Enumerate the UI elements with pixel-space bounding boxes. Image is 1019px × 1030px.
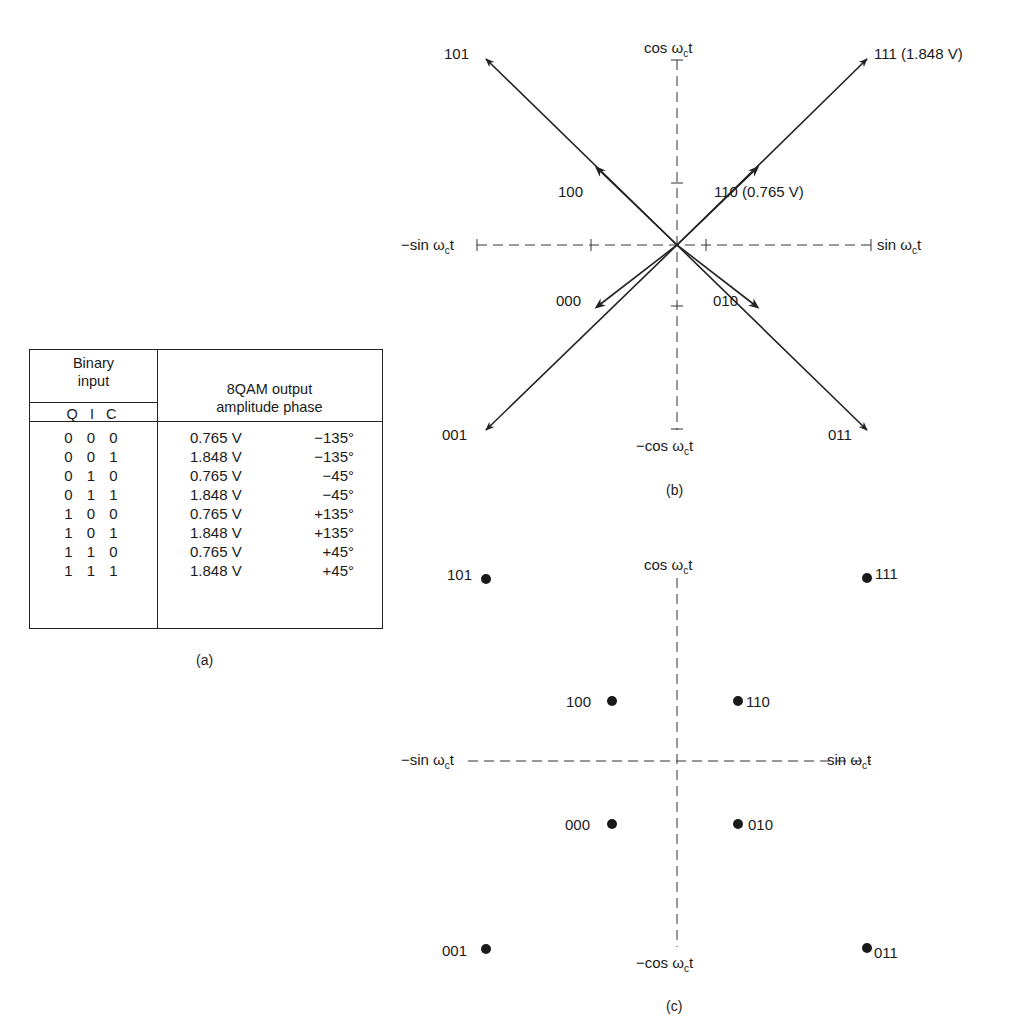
phasor-label-000: 000 [556, 293, 581, 308]
constellation-axis-cos: cos ωct [644, 557, 692, 576]
constellation-label-101: 101 [447, 567, 472, 582]
caption-c: (c) [666, 998, 682, 1014]
constellation-axis-neg-sin: −sin ωct [401, 752, 454, 771]
phasor-axis-cos: cos ωct [644, 40, 692, 59]
point-000 [607, 819, 617, 829]
point-010 [733, 819, 743, 829]
caption-b: (b) [666, 482, 683, 498]
constellation-axis-sin: sin ωct [827, 752, 871, 771]
phasor-label-011: 011 [828, 427, 852, 442]
constellation-label-001: 001 [442, 943, 467, 958]
constellation-axes [468, 578, 871, 947]
phasor-axes [477, 60, 871, 430]
diagram-graphics [0, 0, 1019, 1030]
phasor-axis-neg-sin: −sin ωct [401, 237, 454, 256]
point-001 [481, 944, 491, 954]
point-011 [862, 943, 872, 953]
constellation-label-100: 100 [566, 694, 591, 709]
phasor-axis-neg-cos: −cos ωct [636, 438, 693, 457]
constellation-label-110: 110 [746, 694, 770, 709]
constellation-label-010: 010 [748, 817, 773, 832]
phasor-label-110: 110 (0.765 V) [714, 184, 804, 199]
phasor-label-001: 001 [442, 427, 467, 442]
constellation-label-000: 000 [565, 817, 590, 832]
constellation-label-011: 011 [874, 945, 898, 960]
phasor-label-101: 101 [444, 46, 469, 61]
constellation-axis-neg-cos: −cos ωct [636, 955, 693, 974]
phasor-label-100: 100 [558, 184, 583, 199]
point-111 [862, 573, 872, 583]
phasor-axis-sin: sin ωct [877, 237, 921, 256]
point-110 [733, 696, 743, 706]
phasor-label-010: 010 [713, 293, 738, 308]
phasor-label-111: 111 (1.848 V) [874, 46, 963, 61]
point-101 [481, 574, 491, 584]
constellation-label-111: 111 [875, 566, 898, 581]
point-100 [607, 696, 617, 706]
